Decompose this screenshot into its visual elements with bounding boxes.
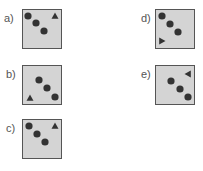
dot-icon [166, 20, 173, 27]
option-label: e) [141, 68, 151, 80]
option-box [22, 65, 62, 105]
dot-icon [41, 138, 48, 145]
dot-icon [51, 93, 58, 100]
dot-icon [33, 130, 40, 137]
dot-icon [167, 77, 174, 84]
dot-icon [32, 19, 39, 26]
triangle-icon [185, 71, 191, 78]
option-box [155, 9, 195, 49]
option-label: a) [4, 12, 14, 24]
option-box [22, 9, 62, 49]
dot-icon [24, 12, 31, 19]
dot-icon [158, 12, 165, 19]
triangle-icon [52, 123, 59, 129]
option-label: b) [6, 68, 16, 80]
triangle-icon [27, 95, 34, 101]
dot-icon [40, 27, 47, 34]
option-label: c) [6, 122, 15, 134]
option-box [155, 65, 195, 105]
triangle-icon [52, 13, 59, 19]
dot-icon [174, 28, 181, 35]
triangle-icon [159, 38, 165, 45]
dot-icon [43, 84, 50, 91]
dot-icon [176, 85, 183, 92]
option-label: d) [141, 12, 151, 24]
dot-icon [25, 122, 32, 129]
dot-icon [35, 76, 42, 83]
option-box [22, 119, 62, 159]
dot-icon [184, 93, 191, 100]
